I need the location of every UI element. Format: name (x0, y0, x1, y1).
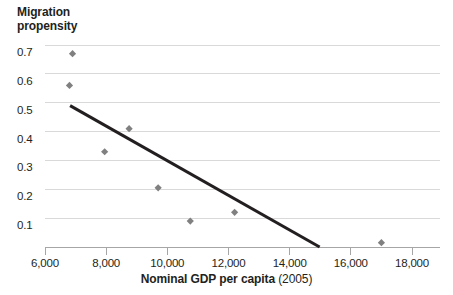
x-axis-tick-label: 12,000 (212, 257, 246, 269)
data-point-marker (155, 184, 162, 191)
x-axis-title: Nominal GDP per capita (2005) (0, 272, 453, 286)
migration-propensity-scatter-chart: Migration propensity 0.10.20.30.40.50.60… (0, 0, 453, 295)
x-axis-tick-label: 16,000 (334, 257, 368, 269)
data-point-marker (69, 50, 76, 57)
x-axis-title-main: Nominal GDP per capita (141, 272, 275, 286)
chart-plot-area (0, 0, 453, 295)
gridlines (45, 45, 440, 218)
trend-line (70, 106, 320, 247)
data-points (66, 50, 385, 246)
x-axis-ticks (45, 247, 412, 255)
y-axis-tick-label: 0.4 (17, 133, 32, 145)
x-axis-tick-label: 8,000 (92, 257, 120, 269)
data-point-marker (66, 82, 73, 89)
y-axis-tick-label: 0.7 (17, 46, 32, 58)
y-axis-tick-label: 0.3 (17, 161, 32, 173)
y-axis-title: Migration propensity (17, 6, 77, 33)
data-point-marker (378, 239, 385, 246)
y-axis-tick-label: 0.1 (17, 219, 32, 231)
y-axis-tick-label: 0.5 (17, 104, 32, 116)
x-axis-tick-label: 10,000 (150, 257, 184, 269)
data-point-marker (231, 209, 238, 216)
x-axis-tick-label: 14,000 (273, 257, 307, 269)
x-axis-title-year: (2005) (278, 272, 312, 286)
x-axis-tick-label: 18,000 (395, 257, 429, 269)
y-axis-tick-label: 0.2 (17, 190, 32, 202)
data-point-marker (101, 148, 108, 155)
x-axis-tick-label: 6,000 (31, 257, 59, 269)
y-axis-tick-label: 0.6 (17, 75, 32, 87)
